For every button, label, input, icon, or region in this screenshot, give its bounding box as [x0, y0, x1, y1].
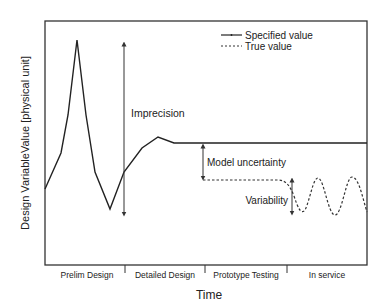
x-axis-label: Time	[196, 288, 223, 302]
legend-specified-label: Specified value	[245, 30, 313, 41]
chart: Imprecision Model uncertainty Variabilit…	[0, 0, 385, 307]
specified-value-line	[45, 40, 367, 209]
phase-label-in-service: In service	[309, 270, 346, 280]
phase-label-detailed: Detailed Design	[135, 270, 195, 280]
imprecision-label: Imprecision	[131, 107, 185, 119]
phase-label-prototype: Prototype Testing	[213, 270, 279, 280]
phase-label-prelim: Prelim Design	[61, 270, 114, 280]
variability-label: Variability	[245, 195, 288, 206]
legend: Specified value True value	[221, 30, 313, 52]
model-uncertainty-label: Model uncertainty	[207, 157, 286, 168]
legend-true-label: True value	[245, 41, 292, 52]
y-axis-label: Design VariableValue [physical unit]	[19, 56, 31, 230]
